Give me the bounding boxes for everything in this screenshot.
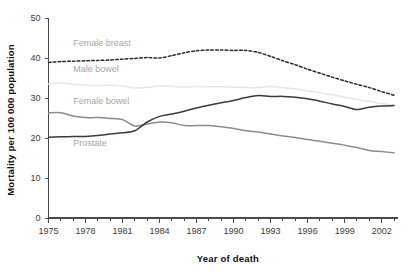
x-axis-title: Year of death — [197, 253, 259, 264]
series-label-female-breast: Female breast — [73, 38, 131, 48]
x-axis-tick-label: 1981 — [113, 226, 133, 236]
y-axis-tick-label: 50 — [30, 13, 40, 23]
mortality-line-chart: 0102030405019751978198119841987199019931… — [0, 0, 411, 271]
x-axis-tick-label: 1984 — [150, 226, 170, 236]
x-axis-tick-label: 2002 — [372, 226, 392, 236]
x-axis-tick-label: 1993 — [261, 226, 281, 236]
x-axis-tick-label: 1996 — [298, 226, 318, 236]
x-axis-tick-label: 1987 — [187, 226, 207, 236]
x-axis-tick-label: 1999 — [335, 226, 355, 236]
chart-container: 0102030405019751978198119841987199019931… — [0, 0, 411, 271]
y-axis-tick-label: 20 — [30, 133, 40, 143]
x-axis-tick-label: 1975 — [38, 226, 58, 236]
series-labels-layer: Female breastMale bowelFemale bowelProst… — [73, 38, 131, 148]
series-label-female-bowel: Female bowel — [73, 96, 129, 106]
series-label-prostate: Prostate — [73, 138, 107, 148]
y-axis-tick-label: 40 — [30, 53, 40, 63]
x-axis-tick-label: 1978 — [76, 226, 96, 236]
y-axis-tick-label: 10 — [30, 173, 40, 183]
y-axis-tick-label: 0 — [35, 213, 40, 223]
y-axis-tick-label: 30 — [30, 93, 40, 103]
y-axis-title: Mortality per 100 000 population — [5, 44, 16, 196]
x-axis-tick-label: 1990 — [224, 226, 244, 236]
series-label-male-bowel: Male bowel — [73, 64, 119, 74]
